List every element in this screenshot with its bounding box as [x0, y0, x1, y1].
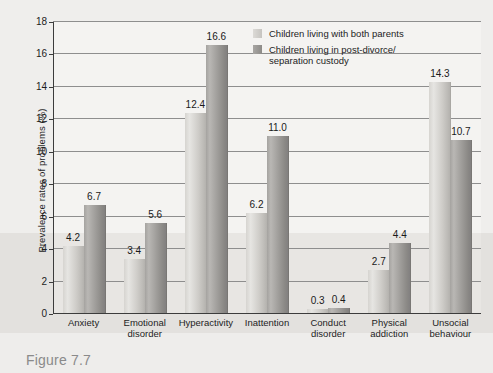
y-axis-tick-label: 16: [36, 49, 47, 59]
bar-value-label: 5.6: [148, 210, 162, 220]
bar-value-label: 12.4: [186, 100, 205, 110]
bar-value-label: 2.7: [372, 257, 386, 267]
y-axis-tick-label: 8: [41, 179, 47, 189]
bar-value-label: 11.0: [268, 123, 287, 133]
y-axis-tick-mark: [49, 314, 53, 315]
category-label-line: Hyperactivity: [179, 317, 233, 328]
bar-value-label: 6.7: [87, 192, 101, 202]
legend-item-post-divorce: Children living in post-divorce/ separat…: [253, 44, 468, 66]
bar: 6.7: [84, 205, 106, 314]
bar: 4.2: [63, 246, 85, 314]
legend-label-post-divorce: Children living in post-divorce/ separat…: [269, 44, 396, 66]
category-label-line: disorder: [311, 328, 345, 339]
bar-value-label: 3.4: [127, 246, 141, 256]
x-axis-category-label: Emotionaldisorder: [114, 318, 175, 339]
x-axis-category-label: Hyperactivity: [175, 318, 236, 329]
category-label-line: disorder: [128, 328, 162, 339]
y-axis-tick-label: 12: [36, 114, 47, 124]
bar: 6.2: [246, 213, 268, 314]
y-axis-tick-label: 18: [36, 17, 47, 27]
bar: 5.6: [145, 223, 167, 314]
bar: 3.4: [124, 259, 146, 314]
category-label-line: Inattention: [245, 317, 289, 328]
x-axis-category-label: Inattention: [236, 318, 297, 329]
bar-value-label: 10.7: [451, 127, 470, 137]
bar: 10.7: [450, 140, 472, 314]
y-axis-tick-label: 6: [41, 212, 47, 222]
y-axis-tick-label: 2: [41, 277, 47, 287]
category-label-line: Anxiety: [68, 317, 99, 328]
category-label-line: Unsocial: [432, 317, 468, 328]
chart-legend: Children living with both parents Childr…: [253, 28, 468, 71]
legend-label-post-divorce-line1: Children living in post-divorce/: [269, 44, 396, 55]
bar: 14.3: [429, 82, 451, 314]
bar-value-label: 0.4: [332, 295, 346, 305]
bar-value-label: 6.2: [250, 200, 264, 210]
y-axis-tick-label: 14: [36, 82, 47, 92]
bar: 4.4: [389, 243, 411, 314]
bar-value-label: 0.3: [311, 296, 325, 306]
bar-value-label: 4.2: [66, 233, 80, 243]
gridline: [53, 86, 481, 87]
x-axis-category-label: Unsocialbehaviour: [420, 318, 481, 339]
y-axis-tick-label: 10: [36, 147, 47, 157]
y-axis-line: [53, 22, 54, 314]
legend-swatch-light-icon: [253, 29, 262, 38]
legend-label-both-parents: Children living with both parents: [269, 28, 404, 39]
gridline: [53, 118, 481, 119]
figure-caption: Figure 7.7: [26, 352, 91, 368]
legend-swatch-dark-icon: [253, 45, 262, 54]
legend-item-both-parents: Children living with both parents: [253, 28, 468, 39]
bar-value-label: 4.4: [393, 230, 407, 240]
bar: 16.6: [206, 45, 228, 314]
bar: 12.4: [185, 113, 207, 314]
x-axis-category-label: Physicaladdiction: [359, 318, 420, 339]
legend-label-post-divorce-line2: separation custody: [269, 55, 349, 66]
gridline: [53, 21, 481, 22]
category-label-line: behaviour: [430, 328, 472, 339]
category-label-line: addiction: [370, 328, 408, 339]
x-axis-category-label: Anxiety: [53, 318, 114, 329]
bar-chart-figure: Prevalence rates of problems (%) 0246810…: [0, 0, 493, 373]
y-axis-tick-label: 4: [41, 244, 47, 254]
x-axis-line: [53, 313, 481, 314]
y-axis-tick-label: 0: [41, 309, 47, 319]
category-label-line: Emotional: [124, 317, 166, 328]
bar-value-label: 16.6: [207, 32, 226, 42]
bar: 2.7: [368, 270, 390, 314]
bar: 11.0: [267, 136, 289, 314]
category-label-line: Physical: [372, 317, 407, 328]
category-label-line: Conduct: [310, 317, 345, 328]
x-axis-category-label: Conductdisorder: [298, 318, 359, 339]
